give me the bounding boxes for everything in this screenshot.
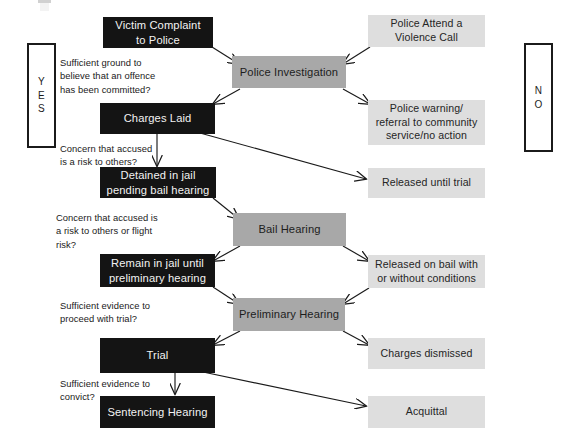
condition-offence-committed: Sufficient ground to believe that an off… xyxy=(60,56,200,96)
arrow-preliminary-to-trial xyxy=(213,331,240,345)
node-police-attend[interactable]: Police Attend a Violence Call xyxy=(368,15,485,47)
node-bail-hearing[interactable]: Bail Hearing xyxy=(233,213,346,246)
node-released-until-trial-label: Released until trial xyxy=(382,176,471,190)
node-charges-laid[interactable]: Charges Laid xyxy=(100,103,215,134)
node-charges-laid-label: Charges Laid xyxy=(124,111,192,125)
condition-proceed-with-trial: Sufficient evidence to proceed with tria… xyxy=(60,299,205,326)
node-trial-label: Trial xyxy=(147,348,169,362)
node-preliminary-hearing-label: Preliminary Hearing xyxy=(239,307,339,321)
scan-artifact-highlight xyxy=(40,3,49,11)
node-remain-in-jail[interactable]: Remain in jail until preliminary hearing xyxy=(100,254,215,287)
node-remain-in-jail-label: Remain in jail until preliminary hearing xyxy=(109,256,206,285)
node-bail-hearing-label: Bail Hearing xyxy=(258,222,320,236)
side-label-no-text: N O xyxy=(534,84,542,112)
condition-risk-to-others-text: Concern that accused is a risk to others… xyxy=(60,143,152,167)
side-label-yes: Y E S xyxy=(27,43,56,148)
condition-convict: Sufficient evidence to convict? xyxy=(60,377,205,404)
condition-risk-or-flight: Concern that accused is a risk to others… xyxy=(56,211,206,251)
node-police-investigation-label: Police Investigation xyxy=(240,65,338,79)
condition-proceed-with-trial-text: Sufficient evidence to proceed with tria… xyxy=(60,300,150,324)
node-charges-dismissed-label: Charges dismissed xyxy=(381,347,473,361)
arrow-investigation-to-warning xyxy=(343,89,370,104)
condition-convict-text: Sufficient evidence to convict? xyxy=(60,378,150,402)
node-trial[interactable]: Trial xyxy=(100,338,215,373)
arrow-bail-hearing-to-remain xyxy=(213,246,240,261)
node-police-investigation[interactable]: Police Investigation xyxy=(232,56,346,88)
arrow-trial-to-acquittal xyxy=(203,372,366,406)
node-released-until-trial[interactable]: Released until trial xyxy=(368,168,485,198)
arrow-charges-to-released-until-trial xyxy=(200,133,366,179)
node-detained-in-jail[interactable]: Detained in jail pending bail hearing xyxy=(100,167,216,198)
node-victim-complaint-label: Victim Complaint to Police xyxy=(115,18,200,47)
side-label-yes-text: Y E S xyxy=(38,75,45,116)
node-released-on-bail-label: Released on bail with or without conditi… xyxy=(375,258,478,285)
arrow-preliminary-to-charges-dismissed xyxy=(343,331,369,345)
node-victim-complaint[interactable]: Victim Complaint to Police xyxy=(103,17,213,48)
condition-offence-committed-text: Sufficient ground to believe that an off… xyxy=(60,57,155,95)
node-released-on-bail[interactable]: Released on bail with or without conditi… xyxy=(368,255,485,288)
node-detained-in-jail-label: Detained in jail pending bail hearing xyxy=(107,168,210,197)
arrow-attend-to-investigation xyxy=(343,47,370,64)
node-acquittal[interactable]: Acquittal xyxy=(368,396,485,428)
node-acquittal-label: Acquittal xyxy=(406,405,448,419)
side-label-no: N O xyxy=(524,43,553,152)
node-police-attend-label: Police Attend a Violence Call xyxy=(390,17,462,44)
condition-risk-to-others: Concern that accused is a risk to others… xyxy=(60,142,200,169)
node-sentencing-hearing-label: Sentencing Hearing xyxy=(107,405,207,419)
node-police-warning[interactable]: Police warning/ referral to community se… xyxy=(368,100,485,145)
arrow-released-on-bail-to-preliminary xyxy=(343,288,369,304)
condition-risk-or-flight-text: Concern that accused is a risk to others… xyxy=(56,212,158,250)
arrow-bail-hearing-to-released-on-bail xyxy=(343,246,369,261)
node-police-warning-label: Police warning/ referral to community se… xyxy=(376,102,478,143)
node-preliminary-hearing[interactable]: Preliminary Hearing xyxy=(233,298,345,331)
arrow-investigation-to-charges xyxy=(213,89,240,104)
node-charges-dismissed[interactable]: Charges dismissed xyxy=(368,338,485,369)
flowchart-canvas: Y E S N O Victim Complaint to Police Pol… xyxy=(0,0,577,439)
